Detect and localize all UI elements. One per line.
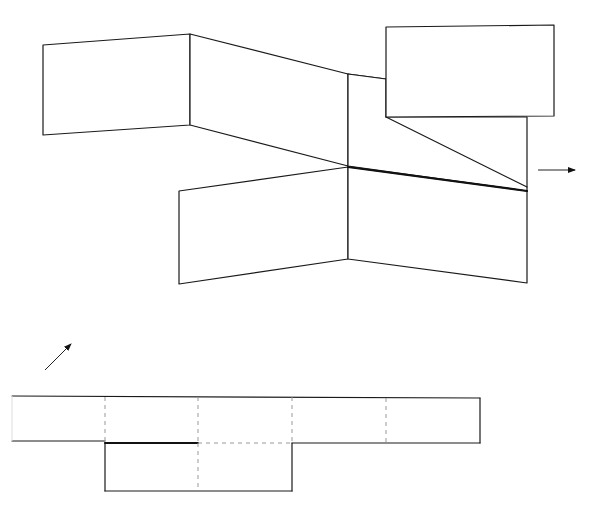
- left-wing-face: [43, 34, 190, 135]
- diagonal-arrow-icon: [45, 344, 71, 370]
- front-left-face: [179, 167, 348, 284]
- diagram-canvas: [0, 0, 607, 511]
- net-top-edge: [12, 396, 480, 398]
- back-slanted-face: [190, 34, 348, 166]
- folded-box: [43, 25, 554, 284]
- top-right-flap: [386, 25, 554, 117]
- unfolded-net: [12, 396, 480, 491]
